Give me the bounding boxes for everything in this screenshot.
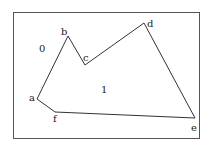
polygon-diagram: abcdef 01 bbox=[0, 0, 209, 146]
region-label-outside: 0 bbox=[39, 43, 45, 54]
region-label-inside: 1 bbox=[101, 84, 107, 95]
vertex-label-e: e bbox=[191, 122, 197, 133]
polygon-shape bbox=[37, 23, 195, 118]
vertex-label-a: a bbox=[29, 92, 35, 103]
frame-border bbox=[14, 13, 200, 139]
vertex-label-b: b bbox=[61, 26, 67, 37]
vertex-label-d: d bbox=[147, 18, 154, 29]
vertex-label-f: f bbox=[53, 113, 58, 124]
vertex-label-c: c bbox=[83, 52, 89, 63]
